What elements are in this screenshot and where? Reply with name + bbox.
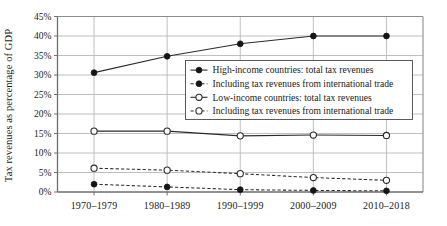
y-tick-label: 30%: [34, 70, 52, 80]
legend-marker-icon: [196, 67, 202, 73]
y-tick-label: 5%: [39, 168, 52, 178]
legend-item-1[interactable]: Including tax revenues from internationa…: [191, 78, 394, 89]
legend-label: High-income countries: total tax revenue…: [213, 64, 374, 75]
data-point: [91, 128, 97, 134]
y-tick-label: 35%: [34, 51, 52, 61]
legend-item-3[interactable]: Including tax revenues from internationa…: [191, 105, 394, 116]
data-point: [310, 188, 316, 194]
legend-marker-icon: [196, 94, 202, 100]
line-chart: 0%5%10%15%20%25%30%35%40%45% 1970–197919…: [0, 0, 447, 226]
y-tick-label: 10%: [34, 148, 52, 158]
legend-label: Including tax revenues from internationa…: [213, 105, 394, 116]
data-point: [310, 33, 316, 39]
x-tick-label: 2000–2009: [290, 200, 337, 211]
data-point: [383, 177, 389, 183]
legend-item-0[interactable]: High-income countries: total tax revenue…: [191, 64, 374, 75]
data-point: [164, 167, 170, 173]
x-tick-label: 2010–2018: [363, 200, 410, 211]
data-point: [91, 70, 97, 76]
data-point: [91, 165, 97, 171]
data-point: [237, 133, 243, 139]
data-point: [310, 174, 316, 180]
chart-legend: High-income countries: total tax revenue…: [186, 61, 413, 120]
data-point: [237, 41, 243, 47]
data-point: [384, 188, 390, 194]
x-tick-label: 1980–1989: [144, 200, 191, 211]
x-tick-labels: 1970–19791980–19891990–19992000–20092010…: [71, 200, 410, 211]
data-point: [383, 132, 389, 138]
y-tick-label: 40%: [34, 31, 52, 41]
data-point: [237, 187, 243, 193]
data-point: [310, 132, 316, 138]
legend-marker-icon: [196, 81, 202, 87]
y-tick-label: 20%: [34, 109, 52, 119]
y-tick-label: 25%: [34, 90, 52, 100]
x-tick-label: 1990–1999: [217, 200, 264, 211]
data-point: [237, 171, 243, 177]
legend-item-2[interactable]: Low-income countries: total tax revenues: [191, 92, 373, 103]
data-point: [164, 128, 170, 134]
legend-label: Low-income countries: total tax revenues: [213, 92, 373, 103]
y-tick-label: 0%: [39, 187, 52, 197]
data-point: [384, 33, 390, 39]
legend-label: Including tax revenues from internationa…: [213, 78, 394, 89]
legend-marker-icon: [196, 108, 202, 114]
chart-page: Tax revenues as percentage of GDP 0%5%10…: [0, 0, 447, 226]
y-tick-label: 45%: [34, 12, 52, 22]
y-tick-labels: 0%5%10%15%20%25%30%35%40%45%: [34, 12, 52, 198]
y-tick-label: 15%: [34, 129, 52, 139]
data-point: [91, 181, 97, 187]
data-point: [164, 184, 170, 190]
x-tick-label: 1970–1979: [71, 200, 118, 211]
data-point: [164, 53, 170, 59]
